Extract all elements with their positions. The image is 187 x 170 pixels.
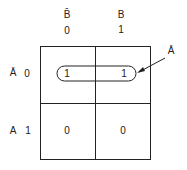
grouping-loop bbox=[57, 66, 136, 81]
grouping-label: Ā bbox=[168, 46, 175, 56]
arrow-icon bbox=[137, 58, 165, 73]
grouping-overlay bbox=[0, 0, 187, 170]
